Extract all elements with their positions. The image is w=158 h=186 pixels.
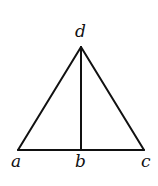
segment-dc (81, 47, 144, 150)
segments (18, 47, 144, 150)
label-c: c (141, 151, 151, 171)
label-b: b (75, 151, 86, 171)
triangle-diagram: d a b c (0, 0, 158, 186)
label-a: a (11, 151, 21, 171)
segment-ad (18, 47, 81, 150)
label-d: d (75, 21, 86, 41)
